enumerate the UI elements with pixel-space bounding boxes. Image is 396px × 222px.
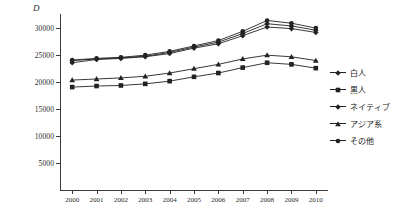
- data-point: [94, 56, 99, 61]
- data-point: [143, 82, 148, 87]
- x-tick: [218, 190, 219, 194]
- data-point: [192, 75, 197, 80]
- data-point: [216, 71, 221, 76]
- x-tick: [145, 190, 146, 194]
- data-point: [70, 58, 75, 63]
- legend-item-2[interactable]: ネイティブ: [330, 98, 394, 115]
- data-point: [216, 38, 221, 43]
- legend-marker-icon: [330, 119, 346, 128]
- data-point: [265, 18, 270, 23]
- y-tick-label: 25000: [35, 50, 54, 59]
- x-tick-label: 2003: [138, 196, 152, 204]
- series-1: [70, 60, 318, 89]
- legend-marker-icon: [330, 136, 346, 145]
- y-tick-label: 20000: [35, 77, 54, 86]
- x-tick-label: 2007: [236, 196, 250, 204]
- series-line: [72, 24, 316, 61]
- legend-label: 白人: [350, 67, 366, 78]
- data-point: [167, 79, 172, 84]
- series-layer: [60, 14, 328, 190]
- legend-item-4[interactable]: その他: [330, 132, 394, 149]
- data-point: [289, 62, 294, 67]
- y-axis-title: D: [33, 3, 40, 13]
- x-tick: [194, 190, 195, 194]
- x-tick: [170, 190, 171, 194]
- x-tick: [267, 190, 268, 194]
- x-tick-label: 2010: [309, 196, 323, 204]
- x-tick-label: 2001: [90, 196, 104, 204]
- data-point: [70, 85, 75, 90]
- series-line: [72, 20, 316, 60]
- data-point: [119, 55, 124, 60]
- series-0: [69, 21, 318, 63]
- legend-label: 黒人: [350, 84, 366, 95]
- plot-area: 50001000015000200002500030000 2000200120…: [60, 14, 328, 190]
- legend-item-1[interactable]: 黒人: [330, 81, 394, 98]
- data-point: [289, 21, 294, 26]
- data-point: [265, 60, 270, 65]
- line-chart: D 50001000015000200002500030000 20002001…: [0, 0, 396, 222]
- x-tick-label: 2000: [65, 196, 79, 204]
- legend-item-3[interactable]: アジア系: [330, 115, 394, 132]
- data-point: [143, 53, 148, 58]
- data-point: [264, 52, 270, 57]
- x-tick: [243, 190, 244, 194]
- data-point: [192, 44, 197, 49]
- data-point: [119, 83, 124, 88]
- data-point: [167, 49, 172, 54]
- x-tick: [291, 190, 292, 194]
- x-tick: [316, 190, 317, 194]
- x-tick: [121, 190, 122, 194]
- x-tick: [72, 190, 73, 194]
- data-point: [94, 84, 99, 89]
- legend-marker-icon: [330, 85, 346, 94]
- legend-marker-icon: [330, 102, 346, 111]
- y-tick-label: 10000: [35, 131, 54, 140]
- y-tick-label: 5000: [39, 158, 54, 167]
- chart-legend: 白人黒人ネイティブアジア系その他: [330, 64, 394, 149]
- x-tick-label: 2004: [163, 196, 177, 204]
- data-point: [240, 65, 245, 70]
- legend-label: その他: [350, 135, 374, 146]
- data-point: [264, 24, 270, 30]
- legend-label: アジア系: [350, 118, 382, 129]
- y-tick-label: 15000: [35, 104, 54, 113]
- x-tick: [97, 190, 98, 194]
- legend-marker-icon: [330, 68, 346, 77]
- x-tick-label: 2009: [284, 196, 298, 204]
- x-tick-label: 2006: [211, 196, 225, 204]
- data-point: [314, 66, 319, 71]
- data-point: [314, 26, 319, 31]
- x-tick-label: 2002: [114, 196, 128, 204]
- data-point: [240, 29, 245, 34]
- x-tick-label: 2008: [260, 196, 274, 204]
- x-tick-label: 2005: [187, 196, 201, 204]
- legend-item-0[interactable]: 白人: [330, 64, 394, 81]
- legend-label: ネイティブ: [350, 101, 390, 112]
- y-tick-label: 30000: [35, 23, 54, 32]
